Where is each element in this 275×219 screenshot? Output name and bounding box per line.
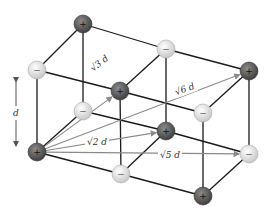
cation-ion: +: [111, 82, 129, 100]
lattice-edge: [37, 70, 120, 91]
minus-sign-icon: −: [245, 149, 253, 159]
minus-sign-icon: −: [79, 106, 87, 116]
anion-ion: −: [194, 104, 212, 122]
lattice-edge: [83, 111, 166, 131]
lattice-edge: [37, 152, 121, 174]
lattice-edge: [83, 24, 166, 49]
plus-sign-icon: +: [79, 19, 87, 29]
anion-ion: −: [74, 102, 92, 120]
distance-label: √5 d: [160, 150, 180, 160]
dimension-d-indicator: d: [10, 82, 22, 146]
lattice-edge: [120, 91, 203, 113]
plus-sign-icon: +: [116, 86, 124, 96]
anion-ion: −: [28, 61, 46, 79]
plus-sign-icon: +: [162, 126, 170, 136]
lattice-edge: [166, 49, 249, 71]
lattice-edge: [121, 174, 203, 196]
lattice-edge: [37, 24, 83, 70]
anion-ion: −: [112, 165, 130, 183]
cation-ion: +: [157, 122, 175, 140]
dimension-label: d: [13, 108, 19, 118]
lattice-edge: [203, 154, 249, 196]
crystal-lattice-diagram: √3 d√6 d√2 d√5 d +−+−+−−+−+−+ d: [0, 0, 275, 219]
anion-ion: −: [157, 40, 175, 58]
cation-ion: +: [28, 143, 46, 161]
lattice-edge: [120, 49, 166, 91]
plus-sign-icon: +: [245, 66, 253, 76]
minus-sign-icon: −: [199, 108, 207, 118]
cation-ion: +: [240, 62, 258, 80]
distance-label: √2 d: [87, 137, 107, 147]
lattice-edge: [120, 91, 121, 174]
lattice-edges: [37, 24, 249, 196]
lattice-edge: [203, 71, 249, 113]
cation-ion: +: [194, 187, 212, 205]
anion-ion: −: [240, 145, 258, 163]
plus-sign-icon: +: [199, 191, 207, 201]
cation-ion: +: [74, 15, 92, 33]
minus-sign-icon: −: [117, 169, 125, 179]
plus-sign-icon: +: [33, 147, 41, 157]
minus-sign-icon: −: [33, 65, 41, 75]
minus-sign-icon: −: [162, 44, 170, 54]
